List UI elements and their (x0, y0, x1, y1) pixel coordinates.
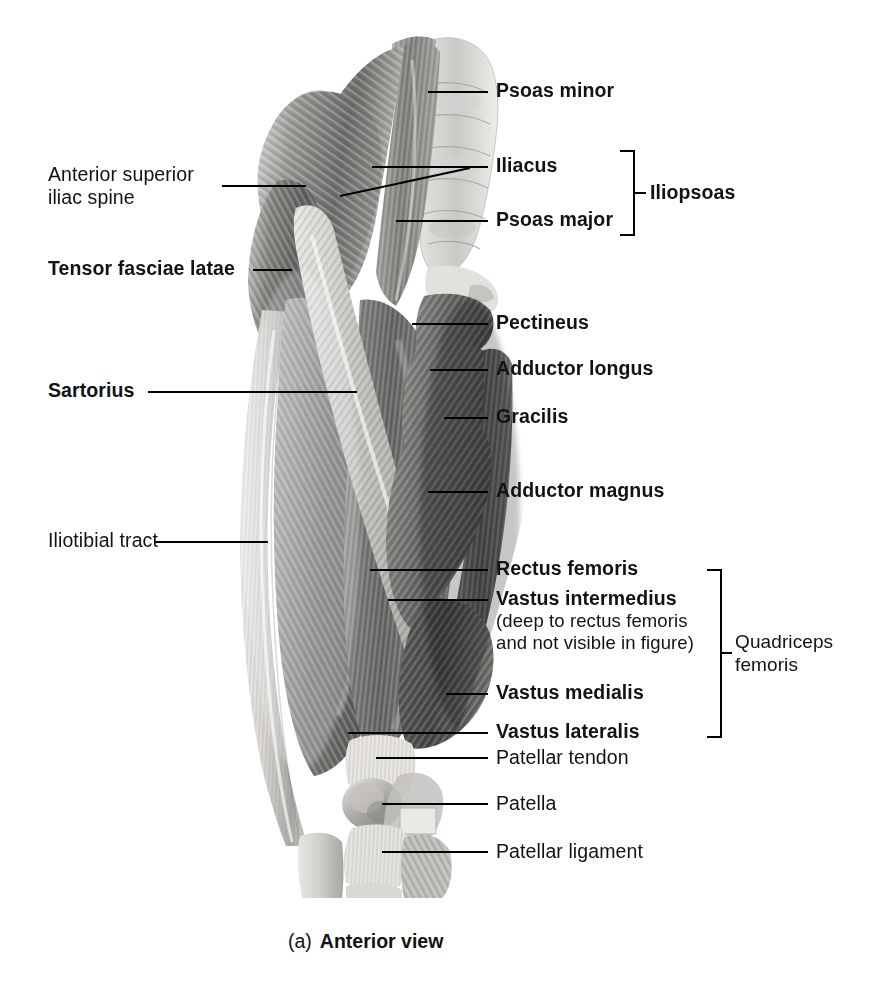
patellar-ligament (344, 825, 408, 891)
label-gracilis: Gracilis (496, 405, 568, 428)
quadriceps-line2: femoris (735, 654, 798, 675)
label-adductor-longus: Adductor longus (496, 357, 653, 380)
label-anterior-superior-iliac-spine: Anterior superioriliac spine (48, 163, 194, 209)
label-asis-line1: Anterior superior (48, 163, 194, 185)
label-iliopsoas-group: Iliopsoas (650, 181, 735, 204)
label-asis-line2: iliac spine (48, 186, 135, 208)
caption-title: Anterior view (320, 930, 444, 952)
label-iliotibial-tract: Iliotibial tract (48, 529, 158, 552)
note-line1: (deep to rectus femoris (496, 610, 688, 631)
label-patella: Patella (496, 792, 556, 815)
label-rectus-femoris: Rectus femoris (496, 557, 638, 580)
note-vastus-intermedius: (deep to rectus femorisand not visible i… (496, 610, 694, 654)
label-vastus-lateralis: Vastus lateralis (496, 720, 640, 743)
label-pectineus: Pectineus (496, 311, 589, 334)
label-psoas-minor: Psoas minor (496, 79, 614, 102)
label-sartorius: Sartorius (48, 379, 135, 402)
label-vastus-intermedius: Vastus intermedius (496, 587, 677, 610)
label-tensor-fasciae-latae: Tensor fasciae latae (48, 257, 235, 280)
anterior-thigh-illustration (0, 0, 882, 988)
label-vastus-medialis: Vastus medialis (496, 681, 644, 704)
bracket-iliopsoas (620, 151, 646, 235)
label-quadriceps-femoris-group: Quadricepsfemoris (735, 630, 833, 676)
label-patellar-ligament: Patellar ligament (496, 840, 643, 863)
label-psoas-major: Psoas major (496, 208, 613, 231)
bracket-quadriceps-femoris (707, 570, 732, 737)
quadriceps-line1: Quadriceps (735, 631, 833, 652)
label-iliacus: Iliacus (496, 154, 557, 177)
label-adductor-magnus: Adductor magnus (496, 479, 664, 502)
muscle-artwork (240, 37, 520, 898)
label-patellar-tendon: Patellar tendon (496, 746, 629, 769)
figure-caption: (a)Anterior view (288, 930, 443, 953)
note-line2: and not visible in figure) (496, 632, 694, 653)
caption-part-label: (a) (288, 930, 312, 952)
